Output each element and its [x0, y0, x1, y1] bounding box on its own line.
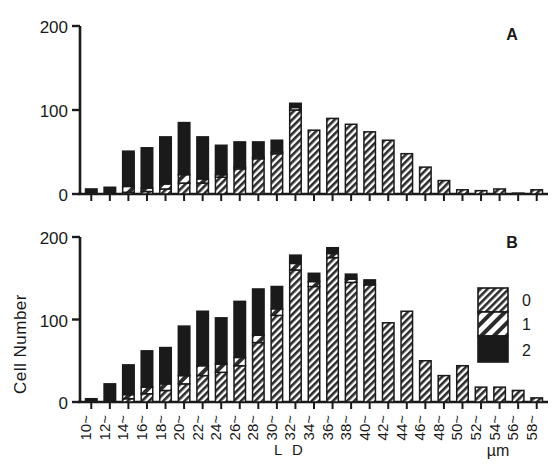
bar-group: [141, 148, 153, 194]
bar-segment-1: [253, 335, 265, 342]
bar-segment-2: [141, 351, 153, 387]
bar-segment-0: [253, 343, 265, 402]
bar-segment-1: [160, 384, 172, 391]
bar-segment-2: [271, 287, 283, 309]
bar-segment-1: [141, 387, 153, 394]
bar-segment-0: [345, 282, 357, 402]
bar-group: [215, 145, 227, 194]
bar-group: [475, 191, 487, 194]
bar-segment-2: [86, 399, 98, 402]
bar-segment-0: [531, 398, 543, 402]
bar-segment-2: [197, 311, 209, 365]
bar-group: [104, 187, 116, 194]
x-tick-label: 50~: [448, 415, 465, 441]
bar-segment-2: [215, 318, 227, 364]
bar-segment-2: [271, 140, 283, 152]
bar-segment-0: [531, 190, 543, 194]
bar-group: [290, 255, 302, 402]
bar-segment-2: [308, 273, 320, 281]
x-tick-label: 18~: [152, 415, 169, 441]
bar-group: [141, 351, 153, 402]
y-tick-label-200-b: 200: [40, 229, 68, 248]
x-tick-label: 38~: [337, 415, 354, 441]
bar-group: [197, 311, 209, 402]
panel-a-plot: 200 100 0 A: [40, 18, 548, 205]
bar-segment-0: [512, 390, 524, 402]
panel-b-plot: Cell Number 200 100 0 10~12~14~16~18~20~…: [11, 229, 548, 459]
y-axis-label: Cell Number: [11, 294, 30, 394]
bar-group: [327, 248, 339, 402]
x-tick-label: 36~: [319, 415, 336, 441]
bar-group: [457, 366, 469, 402]
legend-swatch-2: [478, 336, 508, 362]
x-tick-label: 30~: [263, 415, 280, 441]
bar-segment-0: [215, 177, 227, 194]
bar-segment-2: [86, 189, 98, 194]
bar-segment-0: [308, 130, 320, 194]
bar-group: [178, 123, 190, 194]
bar-segment-2: [234, 301, 246, 357]
bar-segment-2: [160, 348, 172, 384]
bar-group: [420, 361, 432, 402]
x-tick-label: 14~: [114, 415, 131, 441]
legend-label-2: 2: [522, 342, 531, 359]
x-tick-label: 28~: [244, 415, 261, 441]
y-tick-label-100-b: 100: [40, 312, 68, 331]
bar-segment-1: [178, 175, 190, 183]
bar-segment-0: [475, 387, 487, 402]
panel-label-a: A: [506, 26, 518, 43]
bar-group: [531, 398, 543, 402]
bar-segment-0: [178, 384, 190, 402]
bar-segment-0: [364, 285, 376, 402]
x-tick-label: 40~: [356, 415, 373, 441]
bar-segment-1: [123, 186, 135, 192]
y-tick-label-0-b: 0: [59, 394, 68, 413]
panel-label-b: B: [506, 234, 518, 251]
bar-segment-2: [215, 145, 227, 174]
bar-segment-0: [271, 315, 283, 402]
bar-segment-0: [382, 140, 394, 194]
bar-segment-0: [290, 110, 302, 194]
bar-segment-2: [104, 384, 116, 402]
x-tick-label: 46~: [411, 415, 428, 441]
x-tick-label: 16~: [133, 415, 150, 441]
x-tick-label: 42~: [374, 415, 391, 441]
bar-segment-1: [160, 184, 172, 189]
bar-segment-0: [271, 154, 283, 194]
x-tick-label: 48~: [430, 415, 447, 441]
bar-group: [438, 181, 450, 194]
bar-segment-2: [123, 151, 135, 186]
x-tick-label: 56~: [504, 415, 521, 441]
bar-segment-1: [197, 366, 209, 376]
bar-segment-0: [215, 372, 227, 402]
legend-label-0: 0: [522, 292, 531, 309]
bar-group: [308, 273, 320, 402]
legend-label-1: 1: [522, 316, 531, 333]
bar-group: [215, 318, 227, 402]
bar-segment-0: [160, 189, 172, 194]
bar-segment-0: [420, 167, 432, 194]
x-tick-labels-b: 10~12~14~16~18~20~22~24~26~28~30~32~34~3…: [77, 415, 539, 441]
bars-a: [86, 103, 543, 194]
bar-segment-0: [178, 183, 190, 194]
bar-segment-0: [382, 323, 394, 402]
bar-group: [160, 348, 172, 402]
bar-segment-0: [253, 159, 265, 194]
bar-group: [364, 280, 376, 402]
bar-segment-0: [457, 190, 469, 194]
bar-group: [401, 311, 413, 402]
bar-segment-0: [494, 189, 506, 194]
bar-group: [234, 142, 246, 194]
bar-segment-2: [290, 103, 302, 107]
bar-group: [475, 387, 487, 402]
bar-segment-0: [308, 287, 320, 403]
bar-group: [253, 142, 265, 194]
bar-group: [420, 167, 432, 194]
bar-group: [290, 103, 302, 194]
bar-segment-0: [290, 270, 302, 402]
x-axis-title: L D: [274, 441, 306, 458]
bar-segment-0: [457, 366, 469, 402]
bar-group: [438, 376, 450, 402]
bar-group: [104, 384, 116, 402]
bar-segment-0: [364, 132, 376, 194]
